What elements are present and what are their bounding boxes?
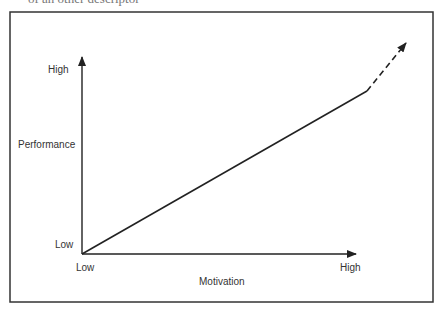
y-high-label: High <box>48 64 69 75</box>
trend-line-dashed <box>367 43 406 91</box>
frame <box>10 12 433 302</box>
y-axis-label: Performance <box>18 139 75 150</box>
x-high-label: High <box>340 262 361 273</box>
y-low-label: Low <box>55 239 73 250</box>
trend-line-solid <box>82 91 367 254</box>
x-low-label: Low <box>76 262 94 273</box>
x-axis-label: Motivation <box>199 276 245 287</box>
diagram-canvas <box>0 0 442 309</box>
